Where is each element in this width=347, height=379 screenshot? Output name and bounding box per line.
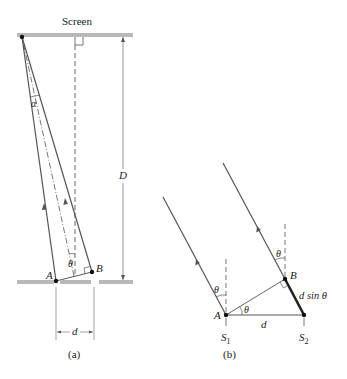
screen-point-dot [20,35,24,39]
segment-AB [226,279,285,315]
panel-a: Screen D α θ [17,15,133,361]
label-theta: θ [68,258,73,269]
label-S2: S2 [299,331,309,346]
arrow-up-icon [121,37,125,42]
label-B: B [96,262,103,274]
point-B-dot [283,277,287,281]
theta-arc-angle [240,307,242,315]
arrow-left-icon [57,331,61,334]
label-B: B [290,269,297,281]
screen-label: Screen [62,15,92,27]
label-d: d [72,325,78,337]
screen-bar [17,33,133,37]
label-A: A [213,309,221,321]
label-D: D [118,169,127,181]
label-theta-angle: θ [244,304,249,315]
slit-plate-middle [60,280,91,284]
label-A: A [45,269,53,281]
point-B-dot [90,270,94,274]
theta-arc-left [216,295,226,297]
arrow-right-icon [89,331,93,334]
label-alpha: α [31,98,37,109]
caption-b: (b) [223,348,236,361]
right-angle-marker-screen [75,37,83,45]
double-slit-diagram: Screen D α θ [0,0,347,379]
arrow-down-icon [121,275,125,280]
point-A-dot [224,313,228,317]
point-A-dot [54,279,58,283]
label-theta-left: θ [214,284,219,295]
ray-from-B [22,37,92,272]
label-path-difference: d sin θ [299,290,327,301]
label-theta-right: θ [276,248,281,259]
ray-from-A [163,197,226,315]
panel-b: θ θ θ A B d d sin θ S1 S2 (b) [163,163,327,361]
ray-from-B [223,163,285,279]
center-line [22,37,74,276]
label-S1: S1 [221,331,231,346]
label-d: d [261,318,267,330]
segment-AB [56,272,92,281]
theta-arc [69,254,75,255]
caption-a: (a) [68,348,81,361]
arrow-up-icon [63,198,68,205]
ray-from-A [22,37,56,281]
point-S2-dot [302,313,306,317]
slit-plate-right [99,280,133,284]
